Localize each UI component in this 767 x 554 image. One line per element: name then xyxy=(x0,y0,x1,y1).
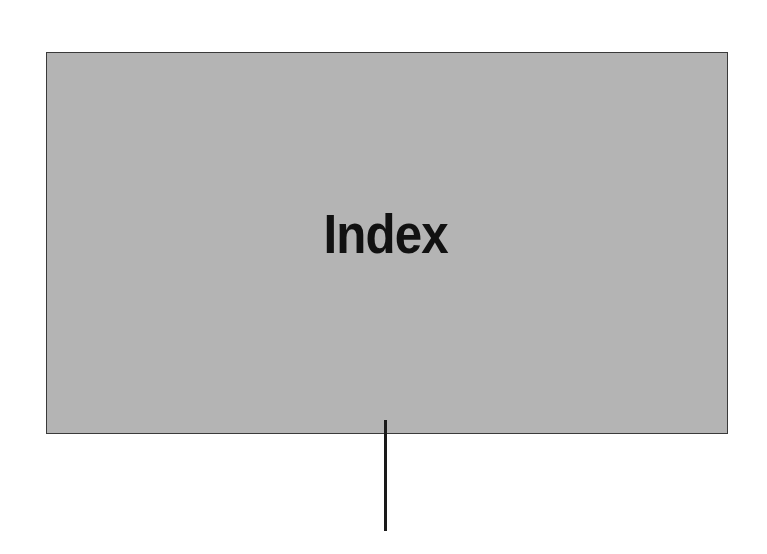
diagram-canvas: Index xyxy=(0,0,767,554)
index-label: Index xyxy=(324,201,448,266)
connector-line xyxy=(384,420,387,531)
index-box: Index xyxy=(46,52,728,434)
